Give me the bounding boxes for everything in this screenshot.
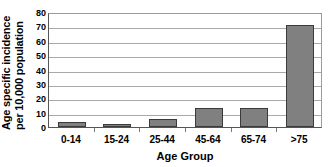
plot-area [48,13,322,128]
y-axis-tick-label: 10 [26,110,46,119]
x-axis-tick [94,128,95,132]
x-axis-tick-label: 45-64 [185,134,231,146]
x-axis-tick [185,128,186,132]
bar[interactable] [195,108,223,127]
y-axis-tick-label: 50 [26,52,46,61]
bar-slot [186,14,232,127]
bar-series [49,14,321,127]
y-axis-tick-label: 80 [26,9,46,18]
bar[interactable] [240,108,268,127]
x-axis-tick-labels: 0-1415-2425-4445-6465-74>75 [48,134,322,148]
x-axis-tick-label: 25-44 [139,134,185,146]
x-axis-tick-label: 15-24 [94,134,140,146]
bar-slot [232,14,278,127]
x-axis-tick [276,128,277,132]
bar[interactable] [58,122,86,127]
x-axis-title: Age Group [48,150,322,163]
bar-slot [49,14,95,127]
bar[interactable] [103,124,131,127]
y-axis-tick-label: 40 [26,67,46,76]
bar-slot [140,14,186,127]
y-axis-tick-label: 30 [26,81,46,90]
x-axis-tick [231,128,232,132]
bar-slot [95,14,141,127]
y-axis-tick-label: 70 [26,23,46,32]
bar[interactable] [149,119,177,127]
bar-slot [277,14,323,127]
y-axis-title-line-2: per 10,000 population [14,21,25,130]
x-axis-tick [139,128,140,132]
y-axis-title-line-1: Age specific incidence [1,16,12,130]
x-axis-tick-label: 0-14 [48,134,94,146]
bar-chart: Age specific incidence per 10,000 popula… [0,0,329,167]
bar[interactable] [286,25,314,127]
x-axis-tick-label: >75 [276,134,322,146]
y-axis-tick-label: 0 [26,124,46,133]
y-axis-tick-label: 20 [26,95,46,104]
x-axis-ticks [48,128,322,133]
y-axis-tick-label: 60 [26,38,46,47]
x-axis-tick-label: 65-74 [231,134,277,146]
y-axis-tick-labels: 80706050403020100 [26,8,46,132]
